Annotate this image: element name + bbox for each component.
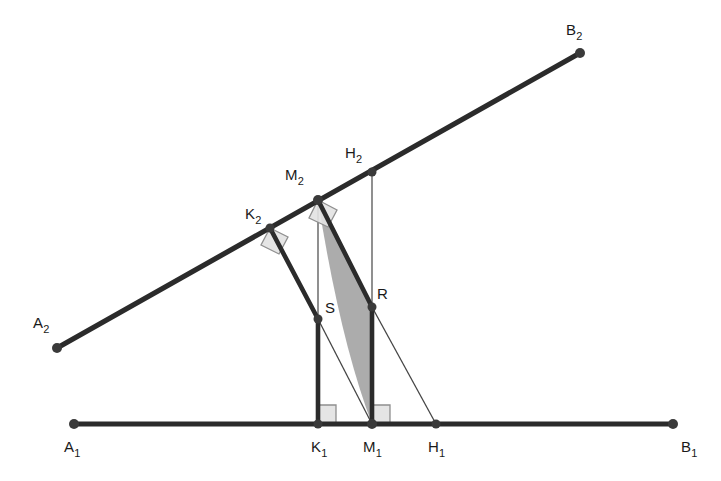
vertex-point-K1 — [314, 420, 323, 429]
segment-K2-S — [270, 228, 318, 319]
vertex-label-M2: M2 — [285, 166, 304, 187]
geometry-diagram: A2B2K2M2H2SRA1K1M1H1B1 — [0, 0, 721, 481]
vertex-label-K2: K2 — [245, 205, 262, 226]
vertex-label-S: S — [325, 299, 335, 316]
vertex-point-B1 — [668, 419, 678, 429]
vertex-point-M1 — [367, 419, 377, 429]
vertex-label-H1: H1 — [428, 438, 445, 459]
vertex-point-H2 — [368, 168, 377, 177]
vertex-label-B2: B2 — [566, 21, 583, 42]
vertex-label-M1: M1 — [363, 438, 382, 459]
vertex-point-K2 — [266, 224, 275, 233]
vertex-label-K1: K1 — [311, 438, 328, 459]
vertex-label-R: R — [377, 285, 388, 302]
geometry-figure-canvas: A2B2K2M2H2SRA1K1M1H1B1 — [0, 0, 721, 481]
vertex-point-H1 — [432, 420, 441, 429]
vertex-point-R — [368, 303, 377, 312]
vertex-label-H2: H2 — [345, 144, 362, 165]
vertex-label-A1: A1 — [64, 438, 81, 459]
vertex-point-M2 — [313, 195, 323, 205]
vertex-label-B1: B1 — [681, 438, 698, 459]
vertex-point-B2 — [575, 48, 585, 58]
vertex-point-S — [314, 315, 323, 324]
vertex-point-A2 — [52, 343, 62, 353]
vertex-label-A2: A2 — [33, 314, 50, 335]
vertex-point-A1 — [69, 419, 79, 429]
